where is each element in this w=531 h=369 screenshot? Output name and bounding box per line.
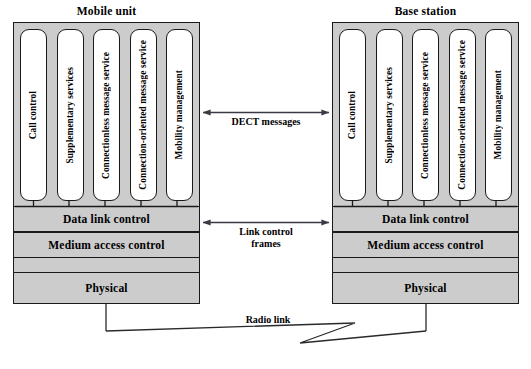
mobile-layer-physical[interactable]: Physical bbox=[13, 272, 200, 304]
entity-label: Supplementary services bbox=[65, 67, 76, 163]
base-station-entity-region: Call control Supplementary services Conn… bbox=[334, 24, 517, 206]
layer-label: Physical bbox=[85, 282, 128, 294]
entity-label: Connection-oriented message service bbox=[457, 40, 468, 190]
entity-label: Call control bbox=[28, 91, 39, 139]
mobile-layer-data-link-control[interactable]: Data link control bbox=[13, 206, 200, 232]
entity-connectionless-message-service[interactable]: Connectionless message service bbox=[412, 29, 439, 201]
base-layer-medium-access-control[interactable]: Medium access control bbox=[332, 232, 519, 258]
mobile-unit-entity-region: Call control Supplementary services Conn… bbox=[15, 24, 198, 206]
entity-connection-oriented-message-service[interactable]: Connection-oriented message service bbox=[449, 29, 476, 201]
entity-label: Mobility management bbox=[174, 70, 185, 159]
base-station-title: Base station bbox=[332, 5, 519, 17]
entity-supplementary-services[interactable]: Supplementary services bbox=[57, 29, 84, 201]
entity-call-control[interactable]: Call control bbox=[20, 29, 47, 201]
entity-label: Connectionless message service bbox=[101, 52, 112, 179]
entity-label: Connection-oriented message service bbox=[138, 40, 149, 190]
entity-label: Mobility management bbox=[493, 70, 504, 159]
dect-messages-label: DECT messages bbox=[203, 116, 329, 128]
radio-link-label: Radio link bbox=[205, 314, 331, 326]
layer-label: Physical bbox=[404, 282, 447, 294]
entity-connection-oriented-message-service[interactable]: Connection-oriented message service bbox=[130, 29, 157, 201]
entity-label: Supplementary services bbox=[384, 67, 395, 163]
layer-label: Data link control bbox=[382, 213, 469, 225]
layer-label: Medium access control bbox=[48, 239, 164, 251]
diagram-canvas: Mobile unit Call control Supplementary s… bbox=[0, 0, 531, 369]
layer-label: Medium access control bbox=[367, 239, 483, 251]
entity-connectionless-message-service[interactable]: Connectionless message service bbox=[93, 29, 120, 201]
base-layer-physical[interactable]: Physical bbox=[332, 272, 519, 304]
entity-mobility-management[interactable]: Mobility management bbox=[485, 29, 512, 201]
mobile-unit-title: Mobile unit bbox=[13, 5, 200, 17]
entity-label: Connectionless message service bbox=[420, 52, 431, 179]
entity-supplementary-services[interactable]: Supplementary services bbox=[376, 29, 403, 201]
entity-call-control[interactable]: Call control bbox=[339, 29, 366, 201]
layer-label: Data link control bbox=[63, 213, 150, 225]
base-layer-data-link-control[interactable]: Data link control bbox=[332, 206, 519, 232]
entity-label: Call control bbox=[347, 91, 358, 139]
entity-mobility-management[interactable]: Mobility management bbox=[166, 29, 193, 201]
link-control-frames-label: Link control frames bbox=[203, 226, 329, 249]
mobile-layer-medium-access-control[interactable]: Medium access control bbox=[13, 232, 200, 258]
